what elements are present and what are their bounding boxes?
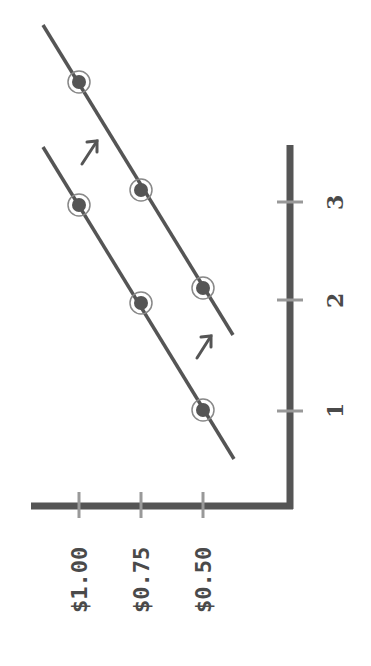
line-2-markers (68, 71, 214, 299)
arrow-up-right-icon (197, 336, 211, 358)
marker-dot (72, 198, 86, 212)
quantity-label-1: 1 (322, 403, 348, 418)
axes (31, 145, 293, 509)
price-label-1.00: $1.00 (67, 547, 92, 613)
price-label-0.75: $0.75 (129, 547, 154, 613)
quantity-tick-labels: 3 2 1 (322, 195, 348, 418)
marker-dot (196, 281, 210, 295)
price-tick-labels: $1.00 $0.75 $0.50 (67, 547, 216, 613)
marker-dot (72, 75, 86, 89)
quantity-label-3: 3 (322, 195, 348, 210)
price-label-0.50: $0.50 (191, 547, 216, 613)
line-1-markers (68, 194, 214, 421)
shift-arrows (82, 141, 211, 358)
marker-dot (134, 183, 148, 197)
marker-dot (196, 403, 210, 417)
quantity-label-2: 2 (322, 293, 348, 308)
supply-shift-chart: $1.00 $0.75 $0.50 3 2 1 (0, 0, 371, 666)
series-line-2 (43, 25, 233, 335)
arrow-up-right-icon (82, 141, 97, 164)
marker-dot (134, 296, 148, 310)
